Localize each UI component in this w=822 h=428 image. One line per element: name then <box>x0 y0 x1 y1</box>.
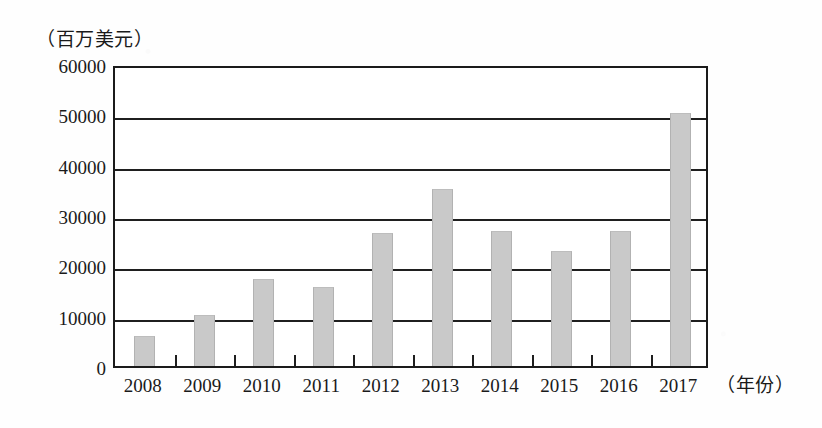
x-axis-tick-mark <box>472 355 474 366</box>
y-axis-tick-label: 60000 <box>14 57 106 76</box>
x-axis-tick-mark <box>175 355 177 366</box>
bar <box>253 279 274 366</box>
x-axis-tick-mark <box>413 355 415 366</box>
y-axis-tick-label-group: 0100002000030000400005000060000 <box>8 0 106 428</box>
y-axis-tick-label: 10000 <box>14 308 106 327</box>
y-axis-tick-label: 50000 <box>14 107 106 126</box>
y-axis-tick-label: 40000 <box>14 157 106 176</box>
x-axis-tick-label: 2017 <box>643 374 713 398</box>
bar <box>313 287 334 366</box>
bar-chart-figure: （百万美元） 0100002000030000400005000060000 2… <box>0 0 822 428</box>
x-axis-unit-label: （年份） <box>716 374 794 398</box>
x-axis-tick-mark <box>591 355 593 366</box>
bar <box>432 189 453 366</box>
bar <box>134 336 155 366</box>
y-axis-tick-label: 20000 <box>14 258 106 277</box>
bar <box>372 233 393 366</box>
x-axis-tick-mark <box>651 355 653 366</box>
x-axis-tick-mark <box>532 355 534 366</box>
gridline <box>115 118 706 120</box>
y-axis-tick-label: 30000 <box>14 208 106 227</box>
x-axis-tick-mark <box>353 355 355 366</box>
bar <box>670 113 691 366</box>
gridline <box>115 219 706 221</box>
y-axis-tick-label: 0 <box>14 359 106 378</box>
bar <box>551 251 572 366</box>
plot-area <box>113 66 708 368</box>
x-axis-tick-mark <box>234 355 236 366</box>
x-axis-tick-mark <box>294 355 296 366</box>
bar <box>491 231 512 366</box>
gridline <box>115 169 706 171</box>
x-axis-tick-label-group: 2008200920102011201220132014201520162017 <box>113 374 708 404</box>
bar <box>610 231 631 366</box>
bar <box>194 315 215 366</box>
